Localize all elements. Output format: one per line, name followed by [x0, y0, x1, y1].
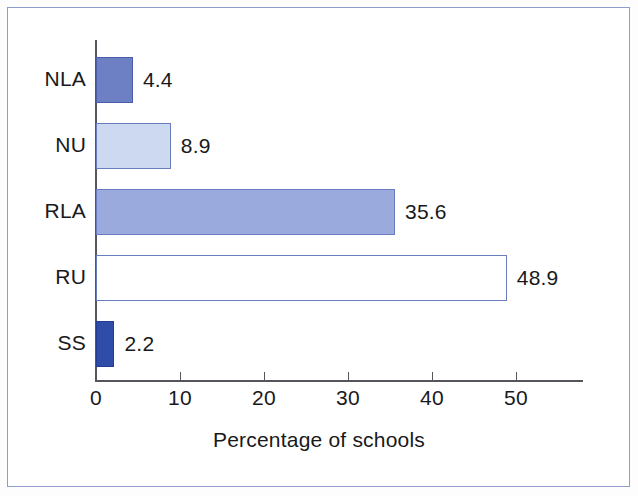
bar-row: 8.9 — [96, 123, 291, 169]
x-tick-label-40: 40 — [402, 386, 462, 410]
category-label-nla: NLA — [8, 67, 86, 91]
bar-row: 2.2 — [96, 321, 234, 367]
x-tick-label-50: 50 — [486, 386, 546, 410]
chart-figure: NLA4.4NU8.9RLA35.6RU48.9SS2.2 0102030405… — [0, 0, 638, 496]
bar-row: 35.6 — [96, 189, 515, 235]
x-tick-10 — [180, 372, 181, 381]
x-tick-0 — [96, 372, 97, 381]
bar-nla — [96, 57, 133, 103]
bar-value-rla: 35.6 — [405, 200, 447, 224]
bar-rla — [96, 189, 395, 235]
bar-nu — [96, 123, 171, 169]
bar-row: 4.4 — [96, 57, 253, 103]
category-label-rla: RLA — [8, 199, 86, 223]
category-label-ss: SS — [8, 331, 86, 355]
x-axis-title: Percentage of schools — [0, 428, 638, 452]
category-label-ru: RU — [8, 265, 86, 289]
x-tick-30 — [348, 372, 349, 381]
x-tick-label-0: 0 — [66, 386, 126, 410]
x-tick-50 — [516, 372, 517, 381]
bar-value-nu: 8.9 — [181, 134, 211, 158]
bar-ru — [96, 255, 507, 301]
x-tick-label-10: 10 — [150, 386, 210, 410]
category-label-nu: NU — [8, 133, 86, 157]
bar-value-nla: 4.4 — [143, 68, 173, 92]
x-tick-label-20: 20 — [234, 386, 294, 410]
bar-value-ru: 48.9 — [517, 266, 559, 290]
bar-value-ss: 2.2 — [124, 332, 154, 356]
bar-row: 48.9 — [96, 255, 627, 301]
bar-ss — [96, 321, 114, 367]
x-tick-40 — [432, 372, 433, 381]
x-tick-label-30: 30 — [318, 386, 378, 410]
x-tick-20 — [264, 372, 265, 381]
plot-area: NLA4.4NU8.9RLA35.6RU48.9SS2.2 0102030405… — [0, 0, 638, 496]
x-axis-line — [95, 380, 583, 382]
